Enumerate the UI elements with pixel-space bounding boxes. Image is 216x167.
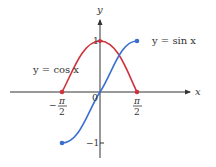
y-tick-label-neg1: −1 — [86, 138, 99, 148]
sin-endpoint-bottom — [60, 141, 65, 146]
x-axis-label: x — [195, 86, 201, 97]
cos-endpoint-right — [135, 90, 140, 95]
pi-numerator: π — [133, 96, 141, 106]
sin-endpoint-top — [135, 39, 140, 44]
sin-label: y = sin x — [151, 35, 196, 46]
neg-sign: − — [49, 100, 57, 110]
neg-pi-numerator: π — [58, 96, 66, 106]
cos-label: y = cos x — [32, 64, 79, 75]
trig-graph: y x y = cos x y = sin x 0 1 −1 − π 2 π 2 — [0, 0, 216, 167]
y-axis-label: y — [96, 4, 103, 15]
y-tick-label-1: 1 — [93, 36, 99, 46]
cos-endpoint-left — [60, 90, 65, 95]
neg-pi-denominator: 2 — [59, 107, 65, 117]
pi-denominator: 2 — [134, 107, 140, 117]
origin-label: 0 — [92, 92, 98, 103]
